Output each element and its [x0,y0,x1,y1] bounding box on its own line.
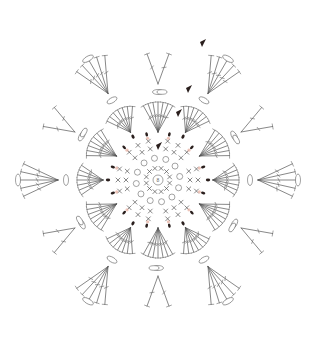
outer-fan-stitch [89,60,108,93]
crochet-chart: 8 [0,0,314,360]
chain-arch [106,95,118,105]
v-stitch [241,107,262,132]
chain-loop [159,199,165,205]
shell-fan-stitch [131,228,133,254]
shell-fan-stitch [184,228,186,254]
outer-fan-stitch [208,267,227,300]
v-stitch [158,54,169,84]
stitch-marker-pink [146,220,149,223]
chain-arch [64,175,69,186]
outer-chain [296,174,301,186]
outer-fan-stitch [77,72,108,94]
chain-loop [133,181,139,187]
outer-fan-stitch [208,65,234,93]
v-stitch [54,228,75,253]
shell-fan-stitch [200,204,215,230]
stitch-marker-pink [187,208,190,211]
outer-fan-stitch [208,72,239,94]
outer-fan-stitch [82,65,108,93]
chain-loop [172,163,178,169]
shell-fan-stitch [101,130,116,156]
chain-arch [149,266,159,271]
stitch-marker-dark [206,179,210,182]
shell-fan-stitch [113,228,130,247]
stitch-marker-dark [131,134,136,139]
outer-fan-stitch [89,267,108,300]
stitch-marker-dark [168,132,172,137]
outer-fan-stitch [208,60,227,93]
outer-fan-stitch [208,267,234,295]
shell-fan-stitch [93,204,116,223]
chain-arch [106,255,118,265]
stitch-marker-dark [168,223,172,228]
start-marker-1 [200,39,206,47]
shell-fan-stitch [186,113,203,132]
chain-loop [177,173,183,179]
outer-fan-stitch [208,267,239,289]
stitch-marker-pink [125,208,128,211]
stitch-marker-pink [115,190,118,193]
shell-fan-stitch [101,204,116,230]
start-marker-2 [186,85,192,93]
start-marker-4 [156,142,162,150]
start-marker-3 [176,109,182,117]
chain-arch [157,90,167,95]
stitch-marker-dark [145,223,149,228]
chain-loop [134,169,140,175]
shell-fan-stitch [200,137,223,156]
stitch-marker-pink [146,137,149,140]
chain-arch [75,215,84,226]
stitch-marker-dark [110,191,115,195]
chain-arch [232,134,241,145]
v-stitch [147,54,158,84]
chain-loop [169,194,175,200]
shell-fan-stitch [200,130,215,156]
outer-fan-stitch [24,180,58,196]
chain-loop [141,160,147,166]
chain-arch [198,255,210,265]
stitch-marker-dark [201,191,206,195]
shell-fan-stitch [113,113,130,132]
stitch-marker-pink [187,149,190,152]
chain-loop [176,185,182,191]
chain-loop [151,155,157,161]
outer-fan-stitch [24,164,58,180]
v-stitch [158,276,169,306]
chain-loop [163,156,169,162]
outer-fan-stitch [258,172,295,180]
outer-chain [82,54,95,64]
chain-loop [138,191,144,197]
v-stitch [43,126,75,132]
chain-arch [198,95,210,105]
outer-chain [222,54,235,64]
stitch-marker-dark [131,221,136,226]
shell-fan-stitch [93,137,116,156]
outer-fan-stitch [77,267,108,289]
shell-fan-stitch [200,204,223,223]
outer-fan-stitch [82,267,108,295]
stitch-marker-pink [198,190,201,193]
stitch-marker-pink [167,137,170,140]
chain-arch [228,222,237,233]
v-stitch [241,228,273,234]
outer-chain [82,296,95,306]
stitch-marker-dark [181,221,186,226]
stitch-marker-dark [106,179,110,182]
stitch-marker-pink [125,149,128,152]
chain-arch [79,127,88,138]
outer-chain [222,296,235,306]
stitch-marker-pink [167,220,170,223]
hexagon-stitch-diagram: 8 [0,0,314,360]
shell-fan-stitch [186,228,203,247]
stitch-marker-pink [115,167,118,170]
stitch-marker-dark [181,134,186,139]
v-stitch [147,276,158,306]
outer-fan-stitch [21,180,58,188]
stitch-marker-pink [198,167,201,170]
chain-loop [147,198,153,204]
stitch-marker-dark [145,132,149,137]
chain-arch [248,175,253,186]
outer-fan-stitch [258,164,292,180]
outer-chain [16,174,21,186]
shell-fan-stitch [184,106,186,132]
